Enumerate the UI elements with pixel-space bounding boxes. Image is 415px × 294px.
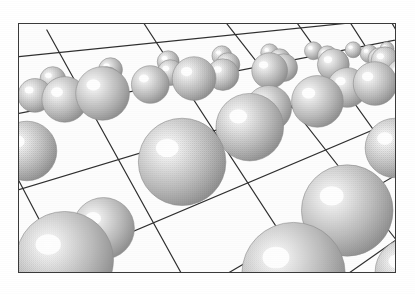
sphere-dither-texture (345, 42, 361, 58)
sphere-specular-highlight (181, 67, 192, 76)
figure-root: Crystal lattice surface with spherical a… (0, 0, 415, 294)
sphere-specular-highlight (263, 247, 290, 269)
sphere-specular-highlight (377, 132, 393, 144)
sphere-dither-texture (131, 66, 169, 104)
sphere-specular-highlight (162, 66, 169, 71)
atom-r5-c4 (353, 62, 395, 106)
illustration-panel (18, 23, 396, 273)
sphere-specular-highlight (216, 50, 221, 54)
sphere-specular-highlight (259, 61, 268, 68)
sphere-specular-highlight (362, 72, 373, 81)
atom-r3-c2 (252, 53, 288, 89)
sphere-dither-texture (216, 93, 284, 160)
sphere-dither-texture (76, 67, 130, 121)
atom-r2-c1 (131, 66, 169, 104)
sphere-specular-highlight (324, 56, 332, 63)
sphere-specular-highlight (229, 109, 247, 123)
sphere-specular-highlight (302, 88, 315, 99)
sphere-specular-highlight (364, 49, 369, 53)
sphere-dither-texture (252, 53, 288, 89)
sphere-dither-texture (172, 57, 216, 101)
sphere-specular-highlight (320, 186, 344, 205)
sphere-specular-highlight (264, 48, 269, 52)
sphere-specular-highlight (156, 139, 179, 157)
atom-r5-c3 (292, 76, 344, 128)
sphere-specular-highlight (162, 56, 168, 61)
sphere-specular-highlight (377, 53, 384, 59)
sphere-specular-highlight (51, 87, 63, 97)
atom-r3-c1 (172, 57, 216, 101)
atom-r3-c0 (76, 67, 130, 121)
sphere-specular-highlight (308, 46, 313, 50)
lattice-scene (19, 24, 395, 272)
sphere-specular-highlight (45, 73, 52, 78)
sphere-specular-highlight (139, 75, 149, 83)
atom-r5-c2 (216, 93, 284, 160)
atom-r5-c1 (138, 118, 226, 205)
sphere-specular-highlight (25, 86, 34, 93)
atom-r0-c6 (345, 42, 361, 58)
sphere-dither-texture (138, 118, 226, 205)
sphere-specular-highlight (36, 234, 61, 254)
sphere-specular-highlight (86, 79, 100, 90)
sphere-specular-highlight (348, 46, 352, 49)
sphere-dither-texture (292, 76, 344, 128)
sphere-dither-texture (353, 62, 395, 106)
